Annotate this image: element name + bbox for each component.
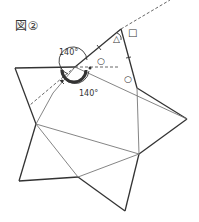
circle-marker-top: ○ <box>97 56 105 66</box>
angle-label-bottom: 140° <box>79 89 98 98</box>
star-diagram: △ □ ○ ○ 140° 140° <box>0 0 199 222</box>
angle-arcs <box>59 33 121 84</box>
angle-label-top: 140° <box>59 48 78 57</box>
triangle-marker: △ <box>113 34 120 44</box>
circle-marker-bottom: ○ <box>124 74 132 84</box>
inner-lines <box>36 67 187 177</box>
square-marker: □ <box>128 27 137 38</box>
dashed-lines <box>30 0 170 105</box>
